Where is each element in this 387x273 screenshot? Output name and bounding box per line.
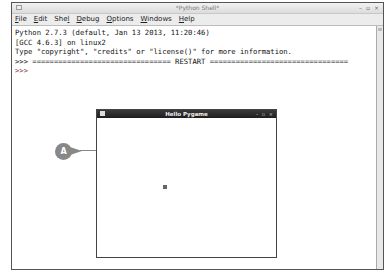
window-controls[interactable]: – ▫ × (256, 110, 274, 118)
mnemonic: l (68, 15, 70, 23)
menu-label: dit (38, 15, 47, 23)
menu-debug[interactable]: Debug (76, 14, 99, 25)
menu-label: elp (184, 15, 195, 23)
menu-file[interactable]: File (15, 14, 27, 25)
pygame-window: Hello Pygame – ▫ × (96, 109, 277, 258)
menu-help[interactable]: Help (179, 14, 195, 25)
shell-line: [GCC 4.6.3] on linux2 (15, 38, 372, 48)
menu-edit[interactable]: Edit (34, 14, 48, 25)
vertical-scrollbar[interactable] (376, 26, 383, 269)
window-controls[interactable]: – ▫ × (359, 3, 380, 13)
callout-badge: A (55, 143, 72, 160)
window-title: *Python Shell* (12, 3, 383, 13)
menu-windows[interactable]: Windows (141, 14, 172, 25)
menu-label: ile (19, 15, 27, 23)
title-bar[interactable]: *Python Shell* – ▫ × (12, 3, 383, 14)
shell-line: Type "copyright", "credits" or "license(… (15, 47, 372, 57)
pygame-square-sprite (163, 185, 167, 189)
menu-shell[interactable]: Shel (54, 14, 69, 25)
callout-leader-line (80, 150, 96, 151)
menu-label: She (54, 15, 67, 23)
menu-label: indows (147, 15, 171, 23)
pygame-title-bar[interactable]: Hello Pygame – ▫ × (97, 110, 276, 118)
pygame-window-title: Hello Pygame (97, 110, 276, 118)
scroll-thumb[interactable] (378, 28, 382, 31)
shell-line: >>> ================================ RES… (15, 57, 372, 67)
menu-options[interactable]: Options (106, 14, 133, 25)
menu-label: ptions (112, 15, 134, 23)
shell-line: Python 2.7.3 (default, Jan 13 2013, 11:2… (15, 28, 372, 38)
shell-prompt[interactable]: >>> (15, 66, 372, 76)
menu-bar: File Edit Shel Debug Options Windows Hel… (12, 14, 383, 26)
menu-label: ebug (82, 15, 100, 23)
